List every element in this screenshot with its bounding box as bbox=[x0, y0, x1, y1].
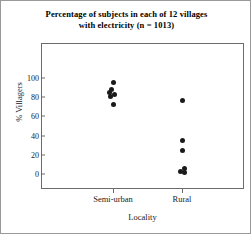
data-point bbox=[111, 80, 116, 85]
y-axis-tick-mark bbox=[41, 135, 45, 136]
y-axis-tick-label: 20 bbox=[31, 150, 39, 159]
y-axis-tick-labels: 020406080100 bbox=[1, 1, 39, 234]
plot-area bbox=[41, 43, 244, 189]
y-axis-tick-mark bbox=[41, 154, 45, 155]
chart-figure: Percentage of subjects in each of 12 vil… bbox=[0, 0, 251, 234]
y-axis-tick-mark bbox=[41, 116, 45, 117]
chart-title-line-2: with electricity (n = 1013) bbox=[21, 20, 232, 31]
y-axis-tick-mark bbox=[41, 174, 45, 175]
x-axis-tick-mark bbox=[182, 189, 183, 193]
y-axis-tick-label: 60 bbox=[31, 112, 39, 121]
data-point bbox=[180, 148, 185, 153]
x-axis-label: Locality bbox=[41, 212, 244, 222]
chart-title-line-1: Percentage of subjects in each of 12 vil… bbox=[21, 9, 232, 20]
x-axis-tick-label: Rural bbox=[173, 194, 192, 204]
data-point bbox=[180, 98, 185, 103]
y-axis-tick-label: 40 bbox=[31, 131, 39, 140]
y-axis-tick-mark bbox=[41, 97, 45, 98]
chart-title: Percentage of subjects in each of 12 vil… bbox=[21, 9, 232, 31]
y-axis-tick-mark bbox=[41, 78, 45, 79]
x-axis-tick-mark bbox=[113, 189, 114, 193]
y-axis-tick-label: 0 bbox=[35, 170, 39, 179]
x-axis-tick-label: Semi-urban bbox=[93, 194, 133, 204]
y-axis-tick-label: 80 bbox=[31, 93, 39, 102]
data-point bbox=[182, 170, 187, 175]
y-axis-tick-label: 100 bbox=[27, 74, 39, 83]
data-point bbox=[111, 102, 116, 107]
data-point bbox=[180, 138, 185, 143]
data-point bbox=[108, 94, 113, 99]
